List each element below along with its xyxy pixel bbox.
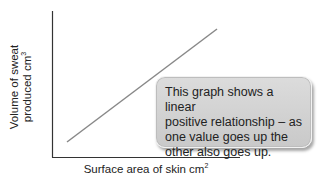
callout-line: This graph shows a linear: [165, 85, 305, 115]
x-axis-label-text: Surface area of skin cm: [84, 163, 205, 175]
callout-line: positive relationship – as: [165, 115, 305, 130]
callout-line: one value goes up the: [165, 130, 305, 145]
x-axis-label: Surface area of skin cm2: [52, 163, 240, 175]
x-axis-label-superscript: 2: [204, 162, 208, 169]
annotation-callout: This graph shows a linear positive relat…: [155, 76, 312, 148]
y-axis-label-unit: produced cm: [21, 56, 33, 122]
y-axis-label: Volume of sweat produced cm3: [2, 22, 40, 152]
y-axis-label-superscript: 3: [20, 52, 27, 56]
y-axis-label-line2: produced cm3: [21, 45, 34, 129]
y-axis-label-line1: Volume of sweat: [8, 45, 21, 129]
callout-line: other also goes up.: [165, 145, 305, 160]
